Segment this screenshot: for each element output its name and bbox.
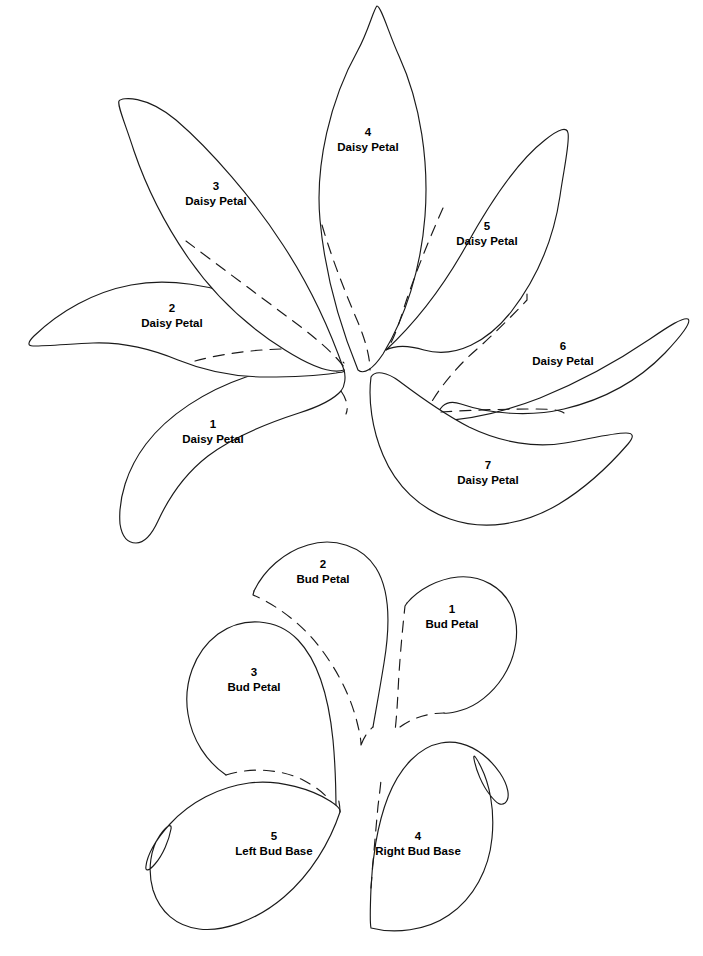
right-bud-base-4-number: 4 bbox=[415, 830, 422, 842]
daisy-petal-3-number: 3 bbox=[213, 180, 219, 192]
daisy-petal-1-label: Daisy Petal bbox=[182, 433, 243, 445]
left-bud-base-5-label: Left Bud Base bbox=[235, 845, 312, 857]
daisy-petal-7-label: Daisy Petal bbox=[457, 474, 518, 486]
bud-petal-1-outline[interactable] bbox=[407, 577, 517, 714]
daisy-petal-6-label: Daisy Petal bbox=[532, 355, 593, 367]
daisy-petal-1-outline[interactable] bbox=[120, 367, 345, 543]
bud-petal-2-number: 2 bbox=[320, 558, 326, 570]
pattern-canvas: 1 Daisy Petal 2 Daisy Petal 3 Daisy Peta… bbox=[0, 0, 703, 956]
piece-bud-petal-1[interactable]: 1 Bud Petal bbox=[395, 577, 517, 731]
daisy-petal-2-label: Daisy Petal bbox=[141, 317, 202, 329]
bud-petal-1-number: 1 bbox=[449, 603, 456, 615]
daisy-petal-4-number: 4 bbox=[365, 126, 372, 138]
right-bud-base-4-outline[interactable] bbox=[370, 742, 508, 931]
bud-petal-2-label: Bud Petal bbox=[296, 573, 349, 585]
piece-daisy-petal-1[interactable]: 1 Daisy Petal bbox=[120, 367, 347, 543]
right-bud-base-4-label: Right Bud Base bbox=[375, 845, 461, 857]
daisy-petal-5-number: 5 bbox=[484, 220, 491, 232]
daisy-petal-7-number: 7 bbox=[485, 459, 491, 471]
daisy-petal-1-hidden-edge bbox=[341, 391, 347, 414]
bud-petal-3-number: 3 bbox=[251, 666, 257, 678]
daisy-petal-1-number: 1 bbox=[210, 418, 217, 430]
daisy-petal-4-outline[interactable] bbox=[319, 6, 426, 372]
left-bud-base-5-number: 5 bbox=[271, 830, 278, 842]
bud-petal-1-label: Bud Petal bbox=[425, 618, 478, 630]
piece-right-bud-base-4[interactable]: 4 Right Bud Base bbox=[370, 742, 508, 931]
piece-daisy-petal-4[interactable]: 4 Daisy Petal bbox=[319, 6, 426, 372]
daisy-flower-group: 1 Daisy Petal 2 Daisy Petal 3 Daisy Peta… bbox=[29, 6, 689, 543]
daisy-petal-2-number: 2 bbox=[169, 302, 175, 314]
bud-group: 1 Bud Petal 2 Bud Petal 3 Bud Petal 4 Ri… bbox=[146, 542, 517, 931]
bud-petal-3-label: Bud Petal bbox=[227, 681, 280, 693]
daisy-petal-3-label: Daisy Petal bbox=[185, 195, 246, 207]
daisy-petal-6-number: 6 bbox=[560, 340, 566, 352]
piece-left-bud-base-5[interactable]: 5 Left Bud Base bbox=[146, 782, 340, 929]
daisy-petal-4-label: Daisy Petal bbox=[337, 141, 398, 153]
daisy-petal-5-label: Daisy Petal bbox=[456, 235, 517, 247]
pattern-sheet: 1 Daisy Petal 2 Daisy Petal 3 Daisy Peta… bbox=[0, 0, 703, 956]
